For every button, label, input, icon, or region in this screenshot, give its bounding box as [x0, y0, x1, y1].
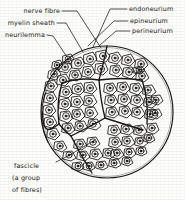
nerve-fibre	[105, 95, 118, 107]
nerve-fibre	[87, 137, 100, 148]
nerve-fibre	[143, 85, 156, 96]
nerve-fibre	[122, 136, 135, 147]
leader-neurilemma	[47, 35, 67, 57]
nerve-fibre	[122, 54, 135, 66]
nerve-fibre	[59, 98, 72, 110]
nerve-fibre	[84, 82, 97, 94]
nerve-fibre	[90, 149, 103, 160]
nerve-fibre	[131, 95, 144, 107]
leader-epineurium	[88, 21, 128, 46]
nerve-fibre	[104, 83, 117, 95]
nerve-fibre	[134, 125, 147, 136]
nerve-fibre	[119, 106, 132, 118]
label-fascicle-line2: (a group	[12, 175, 40, 182]
nerve-fibre	[43, 104, 56, 116]
nerve-cross-section-figure: nerve fibre myelin sheath neurilemma end…	[0, 0, 185, 200]
nerve-fibre	[71, 96, 84, 108]
nerve-fibre	[108, 125, 121, 136]
nerve-fibre	[82, 66, 95, 78]
nerve-fibre	[72, 83, 85, 95]
nerve-fibre	[44, 92, 57, 104]
nerve-fibre	[96, 50, 110, 62]
nerve-fibre	[106, 107, 119, 118]
nerve-fibre	[57, 74, 70, 86]
label-perineurium: perineurium	[132, 28, 173, 35]
label-neurilemma: neurilemma	[0, 32, 45, 39]
nerve-fibre	[136, 147, 147, 156]
nerve-fibre	[47, 128, 60, 140]
label-fascicle-line1: fascicle	[14, 163, 39, 170]
nerve-fibre	[62, 123, 75, 134]
nerve-fibre	[72, 109, 85, 121]
nerve-fibre	[130, 83, 143, 95]
label-myelin-sheath: myelin sheath	[0, 20, 55, 27]
nerve-fibre	[144, 134, 155, 143]
nerve-fibre	[84, 52, 97, 65]
nerve-fibre	[96, 161, 108, 170]
nerve-fibre	[124, 148, 136, 158]
nerve-fibre	[109, 137, 122, 148]
nerve-fibre	[60, 86, 73, 98]
label-endoneurium: endoneurium	[129, 6, 173, 13]
nerve-fibre	[109, 52, 122, 64]
label-fascicle-line3: of fibres)	[12, 187, 42, 194]
nerve-fibre	[83, 162, 95, 171]
leader-endoneurium	[93, 9, 127, 47]
leader-perineurium	[100, 31, 130, 45]
nerve-fibre	[117, 82, 130, 94]
nerve-fibre	[60, 111, 73, 123]
nerve-fibre	[122, 157, 133, 166]
nerve-fibre	[110, 65, 123, 77]
nerve-fibre	[118, 94, 131, 106]
nerve-fibre	[84, 95, 97, 107]
label-epineurium: epineurium	[130, 18, 168, 25]
nerve-fibre	[109, 159, 121, 168]
nerve-fibre	[132, 107, 145, 119]
nerve-fibre	[85, 107, 98, 119]
nerve-fibre	[95, 63, 108, 75]
nerve-fibre	[147, 123, 159, 134]
label-nerve-fibre: nerve fibre	[0, 8, 60, 15]
nerve-fibre	[121, 124, 134, 135]
nerve-fibre	[54, 141, 67, 152]
